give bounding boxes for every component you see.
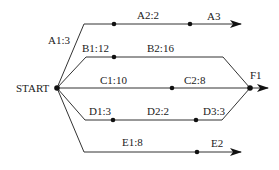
branch-a: A1:3 A2:2 A3 bbox=[48, 9, 241, 88]
node-e1-end bbox=[195, 150, 200, 155]
node-d1-end bbox=[111, 118, 116, 123]
finish-node bbox=[247, 85, 253, 91]
branch-c: C1:10 C2:8 bbox=[57, 74, 250, 90]
label-a1: A1:3 bbox=[48, 34, 71, 46]
node-a1-end bbox=[112, 22, 117, 27]
edge-b bbox=[57, 57, 250, 88]
branch-b: B1:12 B2:16 bbox=[57, 42, 250, 88]
branch-e: E1:8 E2 bbox=[57, 88, 241, 154]
label-d3: D3:3 bbox=[203, 105, 226, 117]
label-c2: C2:8 bbox=[184, 74, 206, 86]
node-d2-end bbox=[194, 118, 199, 123]
label-d1: D1:3 bbox=[89, 105, 112, 117]
label-e1: E1:8 bbox=[122, 136, 143, 148]
edge-a bbox=[57, 24, 241, 88]
node-c1-end bbox=[170, 86, 175, 91]
label-a2: A2:2 bbox=[137, 9, 159, 21]
label-a3: A3 bbox=[207, 10, 221, 22]
activity-network-diagram: A1:3 A2:2 A3 B1:12 B2:16 C1:10 C2:8 D1:3… bbox=[0, 0, 279, 170]
label-e2: E2 bbox=[211, 137, 223, 149]
label-b1: B1:12 bbox=[82, 42, 109, 54]
label-d2: D2:2 bbox=[147, 105, 169, 117]
label-b2: B2:16 bbox=[147, 42, 174, 54]
label-c1: C1:10 bbox=[100, 74, 127, 86]
branch-d: D1:3 D2:2 D3:3 bbox=[57, 88, 250, 122]
node-a2-end bbox=[188, 22, 193, 27]
start-node bbox=[54, 85, 60, 91]
node-b1-end bbox=[112, 55, 117, 60]
finish-label: F1 bbox=[250, 69, 262, 81]
start-label: START bbox=[16, 82, 50, 94]
